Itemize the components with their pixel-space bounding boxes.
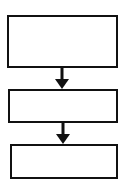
down-arrow-icon [56,123,70,144]
flowchart-box-2 [8,89,118,123]
box-3-label [12,146,116,177]
box-2-label [10,91,116,121]
flowchart-box-1 [7,15,118,68]
flowchart-box-3 [10,144,118,179]
box-1-label [9,17,116,66]
down-arrow-icon [55,68,69,89]
